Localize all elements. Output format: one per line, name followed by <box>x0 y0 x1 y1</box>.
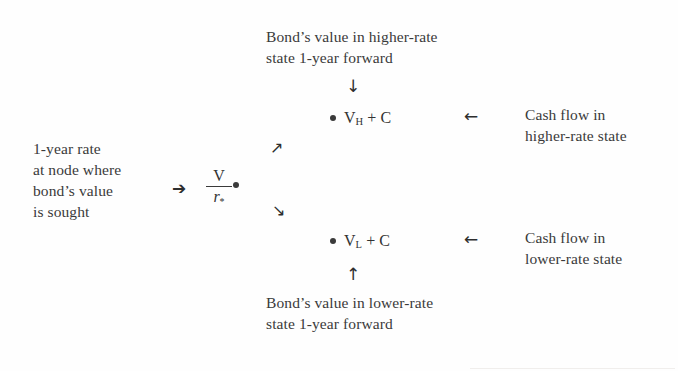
caption-left-line1: 1-year rate <box>33 138 101 159</box>
upper-node-subscript: H <box>356 116 364 127</box>
upper-node-suffix: + C <box>367 109 391 126</box>
caption-right-lower-line1: Cash flow in <box>525 227 605 248</box>
upper-node-value: V <box>344 109 356 126</box>
caption-right-upper-line2: higher-rate state <box>525 125 627 146</box>
caption-left-line3: bond’s value <box>33 180 113 201</box>
lower-node-dot <box>330 238 336 244</box>
down-right-arrow-icon-lower-branch: ↘ <box>272 203 285 219</box>
caption-bottom-line2: state 1-year forward <box>266 313 393 334</box>
center-node-denominator-subscript: * <box>220 195 225 206</box>
lower-node-label: VL + C <box>344 232 390 250</box>
center-node-fraction: V r* <box>206 168 232 207</box>
up-right-arrow-icon-higher-branch: ↗ <box>270 140 283 156</box>
center-node-numerator: V <box>206 168 232 186</box>
caption-bottom-line1: Bond’s value in lower-rate <box>266 292 433 313</box>
down-arrow-icon-to-upper-node: ↓ <box>346 78 360 95</box>
left-arrow-icon-upper-cashflow: ← <box>464 108 478 125</box>
center-node-denominator: r* <box>206 188 232 207</box>
caption-right-lower-line2: lower-rate state <box>525 248 622 269</box>
caption-top-line2: state 1-year forward <box>266 47 393 68</box>
lower-node-suffix: + C <box>366 232 390 249</box>
lower-node-value: V <box>344 232 356 249</box>
caption-left-line2: at node where <box>33 159 121 180</box>
lower-node-subscript: L <box>356 239 363 250</box>
left-arrow-icon-lower-cashflow: ← <box>464 231 478 248</box>
upper-node-dot <box>330 115 336 121</box>
upper-node-label: VH + C <box>344 109 391 127</box>
caption-top-line1: Bond’s value in higher-rate <box>266 26 438 47</box>
scan-artifact-line <box>470 368 675 369</box>
center-node-dot <box>233 182 239 188</box>
caption-right-upper-line1: Cash flow in <box>525 104 605 125</box>
caption-left-line4: is sought <box>33 201 89 222</box>
up-arrow-icon-to-lower-node: ↑ <box>346 266 360 283</box>
binomial-rate-node-diagram: Bond’s value in higher-rate state 1-year… <box>0 0 678 371</box>
right-arrow-icon-to-center-node: ➔ <box>172 180 186 197</box>
fraction-bar <box>206 186 232 187</box>
